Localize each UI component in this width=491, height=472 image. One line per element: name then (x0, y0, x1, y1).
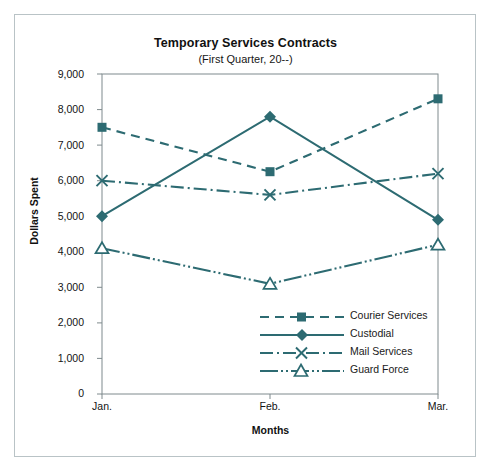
chart-container: Temporary Services Contracts (First Quar… (0, 0, 491, 472)
y-tick-marks (97, 74, 102, 394)
chart-legend: Courier Services Custodial Mail Services (258, 308, 438, 380)
plot-svg (0, 0, 491, 472)
legend-label: Mail Services (350, 345, 412, 357)
legend-swatch-courier-services (258, 308, 346, 326)
x-tick-marks (102, 394, 438, 399)
legend-item-courier-services: Courier Services (258, 308, 438, 326)
legend-label: Custodial (350, 327, 394, 339)
legend-item-custodial: Custodial (258, 326, 438, 344)
series-markers-courier-services (98, 94, 443, 176)
legend-item-guard-force: Guard Force (258, 362, 438, 380)
legend-swatch-custodial (258, 326, 346, 344)
series-line-courier-services (102, 99, 438, 172)
legend-label: Guard Force (350, 363, 409, 375)
chart-page: Temporary Services Contracts (First Quar… (0, 0, 491, 472)
series-markers-guard-force (96, 239, 445, 289)
legend-swatch-mail-services (258, 344, 346, 362)
legend-item-mail-services: Mail Services (258, 344, 438, 362)
legend-label: Courier Services (350, 309, 428, 321)
legend-swatch-guard-force (258, 362, 346, 380)
series-line-mail-services (102, 174, 438, 195)
